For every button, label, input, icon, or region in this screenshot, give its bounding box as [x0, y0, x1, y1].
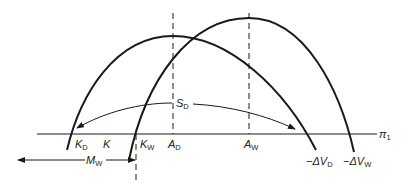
aw-label: AW [243, 138, 259, 152]
curve-delta-vd [67, 36, 316, 150]
diagram-canvas: π1 KD K KW AD AW SD MW −ΔVD −ΔVW [0, 0, 405, 189]
sd-label: SD [176, 97, 189, 111]
sd-arc-right [193, 104, 295, 129]
kw-label: KW [140, 138, 155, 152]
mw-label: MW [86, 154, 103, 168]
pi1-label: π1 [379, 128, 391, 142]
delta-vd-label: −ΔVD [306, 155, 333, 169]
curve-delta-vw [129, 18, 354, 160]
sd-arc-left [77, 103, 172, 128]
ad-label: AD [167, 138, 181, 152]
delta-vw-label: −ΔVW [343, 155, 372, 169]
k-label: K [103, 138, 111, 150]
kd-label: KD [75, 138, 88, 152]
